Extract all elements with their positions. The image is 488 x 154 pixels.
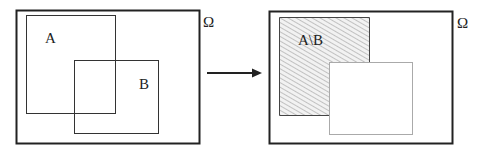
universe-label-left: Ω	[203, 14, 214, 30]
set-difference-diagram: A B Ω A\B Ω	[0, 0, 488, 154]
right-arrow-icon	[207, 69, 262, 78]
left-panel: A B Ω	[17, 11, 215, 144]
difference-region	[280, 18, 370, 116]
set-b-box-faded	[330, 63, 413, 135]
set-a-label: A	[45, 30, 56, 46]
set-b-box	[75, 61, 159, 134]
right-panel: A\B Ω	[270, 12, 469, 144]
universe-box-left	[17, 11, 200, 144]
set-a-box	[27, 16, 116, 114]
difference-label: A\B	[298, 32, 323, 48]
set-b-label: B	[139, 76, 149, 92]
universe-label-right: Ω	[457, 15, 468, 31]
